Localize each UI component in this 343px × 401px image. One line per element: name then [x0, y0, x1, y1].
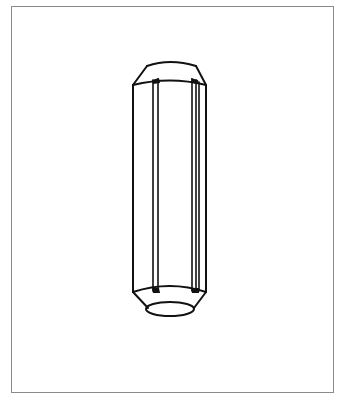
right-slot — [191, 78, 199, 293]
cylinder-body — [133, 85, 206, 292]
slotted-pin-drawing — [0, 0, 343, 401]
left-slot — [152, 78, 160, 293]
